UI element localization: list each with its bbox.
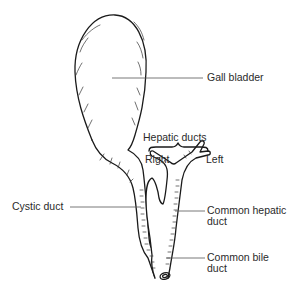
left-hepatic-duct-label: Left [206, 154, 224, 165]
common-bile-duct-label-line2: duct [207, 263, 227, 274]
cystic-duct-label: Cystic duct [12, 201, 63, 212]
common-hepatic-duct-label-line2: duct [207, 216, 227, 227]
gall-bladder [75, 15, 155, 278]
gallbladder-diagram: Gall bladder Hepatic ducts Right Left Cy… [0, 0, 306, 290]
hepatic-ducts-label: Hepatic ducts [143, 132, 207, 143]
diagram-drawing [0, 0, 306, 290]
right-hepatic-duct-label: Right [145, 154, 170, 165]
gall-bladder-label: Gall bladder [207, 72, 264, 83]
